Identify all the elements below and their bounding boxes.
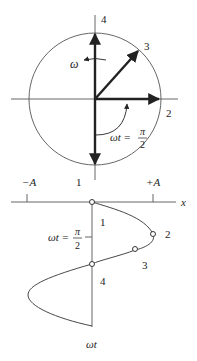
vector-label-2: 2 [166,107,172,119]
omega-label: ω [70,57,78,71]
phasor-vector-3 [95,51,138,99]
point-3 [133,247,138,252]
reference-circle-group: ω 4 3 2 ωt = π 2 [11,13,178,180]
vector-label-4: 4 [101,13,107,25]
point-label-1: 1 [100,216,106,228]
point-label-3: 3 [142,259,148,271]
angle-denominator-bottom: 2 [75,240,80,251]
angle-label-bottom: ωt = π 2 [48,226,82,251]
angle-lhs-bottom: ωt = [48,231,69,243]
projection-group: −A 1 +A x ωt 1 2 3 4 ωt = π 2 [11,176,186,350]
time-axis-label: ωt [86,338,98,350]
angle-denominator: 2 [140,139,145,150]
angle-numerator: π [140,126,146,137]
point-4 [90,262,95,267]
phasor-diagram: ω 4 3 2 ωt = π 2 −A 1 +A x ωt 1 2 3 [0,0,197,361]
angle-lhs: ωt = [110,131,131,143]
projection-label-1-top: 1 [76,176,82,188]
point-2 [151,232,156,237]
point-1 [90,200,95,205]
point-label-2: 2 [165,228,171,240]
vector-label-3: 3 [144,40,150,52]
angle-numerator-bottom: π [75,226,81,237]
point-label-4: 4 [100,275,106,287]
x-axis-label: x [180,196,186,208]
neg-amplitude-label: −A [22,176,36,188]
pos-amplitude-label: +A [146,176,160,188]
